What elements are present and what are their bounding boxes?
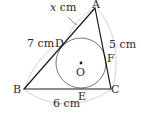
label-o: O <box>76 66 85 79</box>
label-bc-length: 6 cm <box>53 97 81 110</box>
x-leader <box>68 17 77 25</box>
label-bd-length: 7 cm <box>27 37 55 50</box>
center-dot-o <box>80 62 83 65</box>
label-c: C <box>111 83 119 96</box>
label-a: A <box>91 0 101 11</box>
label-ad-length: x cm <box>50 1 77 14</box>
label-d: D <box>55 37 64 50</box>
label-f: F <box>107 52 115 65</box>
label-b: B <box>13 83 21 96</box>
incircle-triangle-diagram: A B C D E F O x cm 7 cm 5 cm 6 cm <box>0 0 141 114</box>
label-ac-length: 5 cm <box>109 38 137 51</box>
